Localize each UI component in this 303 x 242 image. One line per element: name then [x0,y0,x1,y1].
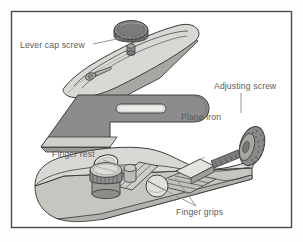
finger-grip-recess-upper [124,164,136,182]
illustration-figure: Lever cap screw Adjusting screw Plane ir… [0,0,303,242]
plane-iron-bevel [41,137,117,147]
label-finger-grips: Finger grips [176,207,223,217]
block-plane-diagram: Lever cap screw Adjusting screw Plane ir… [0,0,303,242]
lever-cap-screw-post [127,44,135,56]
label-plane-iron: Plane iron [181,112,221,122]
label-adjusting-screw: Adjusting screw [214,81,277,91]
lever-cap-screw-knob [114,21,148,43]
finger-grip-recess-lower [146,175,168,197]
label-finger-rest: Finger rest [52,149,95,159]
finger-rest-knob [90,163,122,199]
label-lever-cap-screw: Lever cap screw [20,40,85,50]
plane-iron-slot [116,104,166,113]
